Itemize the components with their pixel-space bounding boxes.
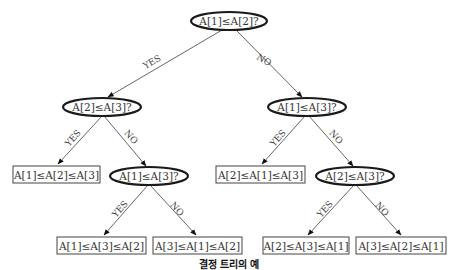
node-label: A[2]≤A[3]? (71, 101, 132, 113)
edge-label-yes: YES (141, 53, 163, 72)
edge-label-no: NO (327, 128, 345, 146)
node-label: A[1]≤A[3]≤A[2] (58, 240, 144, 252)
edge-l2right-no (309, 116, 353, 166)
edge-l3d-yes (308, 185, 354, 235)
edge-labels: YES NO YES NO YES NO YES NO YES NO (62, 52, 390, 220)
leaf-node-l4-3: A[2]≤A[3]≤A[1] (263, 237, 349, 254)
node-label: A[2]≤A[3]? (324, 170, 385, 182)
node-label: A[2]≤A[3]≤A[1] (263, 240, 349, 252)
decision-tree-diagram: YES NO YES NO YES NO YES NO YES NO A[1]≤… (0, 0, 458, 270)
decision-node-root: A[1]≤A[2]? (191, 12, 267, 30)
leaf-node-l3-a: A[1]≤A[2]≤A[3] (13, 166, 100, 183)
leaf-node-l4-2: A[3]≤A[1]≤A[2] (153, 237, 242, 254)
node-label: A[3]≤A[1]≤A[2] (154, 240, 240, 252)
figure-caption: 결정 트리의 예 (199, 258, 260, 270)
edge-label-no: NO (168, 200, 186, 218)
edge-label-no: NO (255, 52, 273, 68)
node-label: A[3]≤A[2]≤A[1] (358, 240, 444, 252)
node-label: A[1]≤A[2]? (198, 15, 259, 27)
edge-l2left-no (104, 116, 146, 166)
decision-node-l3-d: A[2]≤A[3]? (316, 167, 394, 185)
edge-label-no: NO (373, 200, 391, 218)
edge-root-yes (108, 30, 222, 97)
node-label: A[1]≤A[2]≤A[3] (13, 169, 99, 181)
node-label: A[1]≤A[3]? (118, 170, 179, 182)
decision-node-l3-b: A[1]≤A[3]? (110, 167, 188, 185)
leaf-node-l4-4: A[3]≤A[2]≤A[1] (356, 237, 446, 254)
edge-label-yes: YES (62, 128, 83, 149)
leaf-node-l4-1: A[1]≤A[3]≤A[2] (57, 237, 146, 254)
node-label: A[2]≤A[1]≤A[3] (217, 169, 303, 181)
leaf-node-l3-c: A[2]≤A[1]≤A[3] (216, 166, 305, 183)
node-label: A[1]≤A[3]? (276, 101, 337, 113)
decision-node-l2-right: A[1]≤A[3]? (268, 98, 346, 116)
edges (58, 30, 401, 235)
edge-label-no: NO (122, 128, 140, 146)
decision-node-l2-left: A[2]≤A[3]? (63, 98, 141, 116)
edge-l3b-yes (104, 185, 148, 235)
